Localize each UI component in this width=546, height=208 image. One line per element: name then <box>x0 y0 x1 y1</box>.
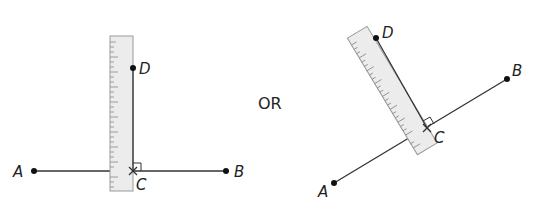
left-figure: A B C D <box>12 36 244 194</box>
label-a-right: A <box>317 183 328 201</box>
point-d-right <box>373 35 379 41</box>
label-a-left: A <box>12 163 23 181</box>
point-a-right <box>331 180 337 186</box>
label-c-left: C <box>136 176 147 194</box>
point-d-left <box>130 65 136 71</box>
point-b-right <box>504 76 510 82</box>
point-a-left <box>31 168 37 174</box>
point-b-left <box>223 168 229 174</box>
or-text: OR <box>258 94 282 113</box>
label-b-left: B <box>234 163 244 181</box>
right-figure: A B C D <box>317 24 522 201</box>
label-b-right: B <box>512 62 522 80</box>
perpendicular-construction-diagram: A B C D OR <box>0 0 546 208</box>
ruler-right <box>347 26 437 154</box>
label-d-left: D <box>139 60 151 78</box>
label-d-right: D <box>382 24 394 42</box>
label-c-right: C <box>434 129 445 147</box>
diagram-canvas: A B C D OR <box>0 0 546 208</box>
